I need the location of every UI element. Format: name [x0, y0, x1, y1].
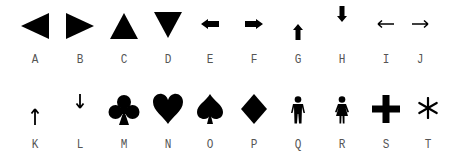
symbol-p: P — [232, 85, 276, 157]
symbol-label: L — [61, 137, 98, 152]
symbol-g: G — [276, 0, 320, 72]
man-icon — [276, 95, 320, 125]
symbol-s: S — [364, 85, 408, 157]
bold-arrow-left-icon — [188, 18, 232, 30]
symbol-n: N — [146, 85, 190, 157]
symbol-label: G — [279, 52, 316, 67]
thin-arrow-up-icon — [13, 108, 57, 126]
symbol-label: J — [401, 52, 438, 67]
symbol-b: B — [58, 0, 102, 72]
spade-icon — [188, 92, 232, 126]
symbol-j: J — [398, 0, 442, 72]
diamond-icon — [232, 92, 276, 126]
symbol-label: B — [61, 52, 98, 67]
symbol-label: K — [16, 137, 53, 152]
symbol-r: R — [320, 85, 364, 157]
triangle-up-icon — [102, 12, 146, 40]
symbol-t: T — [406, 85, 450, 157]
symbol-label: S — [367, 137, 404, 152]
symbol-f: F — [232, 0, 276, 72]
symbol-label: N — [149, 137, 186, 152]
symbol-d: D — [146, 0, 190, 72]
symbol-q: Q — [276, 85, 320, 157]
symbol-k: K — [13, 85, 57, 157]
triangle-left-icon — [13, 12, 57, 40]
symbol-h: H — [320, 0, 364, 72]
symbol-m: M — [102, 85, 146, 157]
triangle-right-icon — [58, 12, 102, 40]
bold-arrow-down-icon — [320, 6, 364, 22]
symbol-label: O — [191, 137, 228, 152]
symbol-label: T — [409, 137, 446, 152]
woman-icon — [320, 95, 364, 125]
symbol-label: C — [105, 52, 142, 67]
symbol-e: E — [188, 0, 232, 72]
heart-icon — [146, 92, 190, 126]
plus-icon — [364, 95, 408, 123]
symbol-c: C — [102, 0, 146, 72]
thin-arrow-down-icon — [58, 93, 102, 109]
asterisk-icon — [406, 97, 450, 119]
symbol-a: A — [13, 0, 57, 72]
symbol-label: E — [191, 52, 228, 67]
symbol-label: Q — [279, 137, 316, 152]
symbol-label: P — [235, 137, 272, 152]
symbol-label: R — [323, 137, 360, 152]
club-icon — [102, 93, 146, 127]
bold-arrow-right-icon — [232, 18, 276, 30]
symbol-o: O — [188, 85, 232, 157]
symbol-label: F — [235, 52, 272, 67]
thin-arrow-right-icon — [398, 18, 442, 30]
symbol-label: D — [149, 52, 186, 67]
symbol-l: L — [58, 85, 102, 157]
triangle-down-icon — [146, 11, 190, 39]
symbol-label: A — [16, 52, 53, 67]
symbol-label: M — [105, 137, 142, 152]
bold-arrow-up-icon — [276, 24, 320, 40]
symbol-label: H — [323, 52, 360, 67]
